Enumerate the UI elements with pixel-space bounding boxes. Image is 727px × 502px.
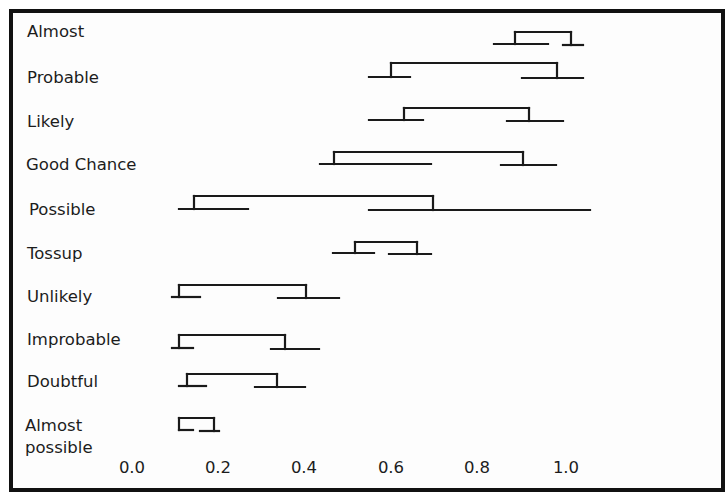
bracket-plot bbox=[0, 0, 727, 502]
